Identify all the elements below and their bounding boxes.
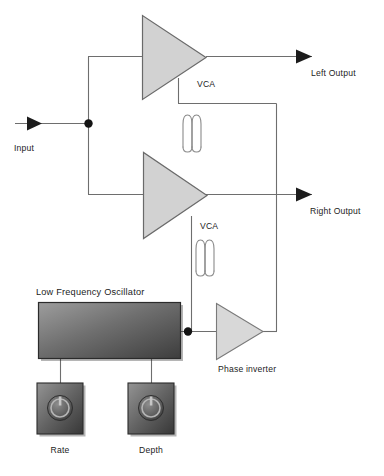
signal-flow-diagram: Input VCA VCA Left Output Right Output L… xyxy=(0,0,384,476)
input-signal-split-dot xyxy=(84,119,92,127)
right-output-label: Right Output xyxy=(310,206,361,216)
modulation-wave-top-icon xyxy=(183,115,201,152)
right-output-arrowhead-icon xyxy=(296,188,312,202)
lfo-output-split-dot xyxy=(184,327,192,335)
diagram-canvas: Input VCA VCA Left Output Right Output L… xyxy=(0,0,384,476)
lfo-label: Low Frequency Oscillator xyxy=(36,287,144,297)
lfo-panel[interactable] xyxy=(39,303,181,359)
rate-knob-label: Rate xyxy=(51,445,70,455)
rate-knob-power-stem-icon xyxy=(59,397,62,406)
left-output-label: Left Output xyxy=(311,68,356,78)
vca-top-label: VCA xyxy=(197,79,215,89)
phase-inverter-triangle xyxy=(217,304,264,360)
depth-knob-label: Depth xyxy=(139,445,163,455)
left-output-arrowhead-icon xyxy=(296,50,312,64)
depth-knob-power-stem-icon xyxy=(150,397,153,406)
phase-inverter-label: Phase inverter xyxy=(218,364,276,374)
modulation-wave-bottom-icon xyxy=(196,240,214,276)
input-label: Input xyxy=(14,143,35,153)
vca-bottom-label: VCA xyxy=(200,221,218,231)
input-arrowhead-icon xyxy=(27,117,42,131)
vca-bottom-triangle xyxy=(144,153,208,239)
